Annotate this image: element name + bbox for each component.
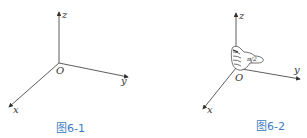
origin-label: O [56,65,64,76]
y-axis [59,63,128,77]
y-axis [236,68,300,79]
figure-caption: 图6-1 [56,119,85,135]
origin-label: O [235,72,243,83]
figure-caption: 图6-2 [256,117,285,133]
z-axis-label: z [62,9,67,20]
y-axis-label: y [121,75,127,86]
x-axis-label: x [207,104,213,115]
y-axis-label: y [294,64,300,75]
figure-1-axes [9,12,128,107]
angle-annotation: π/2 [247,55,257,62]
x-axis [9,63,59,107]
x-axis-label: x [13,104,19,115]
x-axis [203,68,236,109]
z-axis-label: z [239,10,244,21]
